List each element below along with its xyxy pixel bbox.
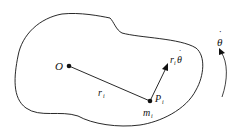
radius-label: r bbox=[98, 87, 102, 98]
radius-subscript: i bbox=[103, 93, 105, 99]
origin-label: O bbox=[55, 60, 63, 72]
point-label: P bbox=[154, 93, 161, 104]
mass-subscript: i bbox=[151, 113, 153, 119]
velocity-theta-dot: ˙ bbox=[178, 48, 181, 58]
velocity-subscript: i bbox=[174, 60, 176, 66]
angular-velocity-arc bbox=[221, 52, 226, 97]
rigid-body-diagram: O r i P i m i r i θ ˙ θ ˙ bbox=[0, 0, 240, 134]
mass-label: m bbox=[143, 107, 150, 118]
radius-vector bbox=[69, 66, 150, 101]
point-subscript: i bbox=[162, 99, 164, 105]
angular-velocity-arrowhead bbox=[219, 48, 225, 55]
velocity-arrowhead bbox=[162, 63, 168, 71]
rigid-body-outline bbox=[15, 13, 203, 126]
angular-velocity-dot: ˙ bbox=[218, 29, 221, 40]
